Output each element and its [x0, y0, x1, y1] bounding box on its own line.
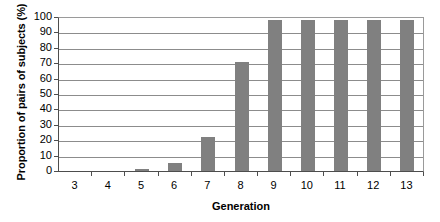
bar: [201, 137, 215, 171]
bar-chart: Proportion of pairs of subjects (%) 0102…: [0, 0, 440, 222]
y-axis-tick-label: 30: [20, 119, 52, 130]
x-axis-tick-mark: [158, 172, 159, 176]
y-axis-tick-label: 100: [20, 11, 52, 22]
bar: [235, 62, 249, 171]
bar: [367, 20, 381, 171]
y-axis-tick-label: 20: [20, 134, 52, 145]
y-axis-tick-label: 90: [20, 26, 52, 37]
bar: [168, 163, 182, 171]
y-axis-tick-label: 60: [20, 73, 52, 84]
x-axis-tick-mark: [357, 172, 358, 176]
x-axis-title: Generation: [58, 200, 424, 212]
x-axis-tick-mark: [124, 172, 125, 176]
x-axis-tick-label: 13: [386, 179, 426, 191]
bar: [301, 20, 315, 171]
y-axis-tick-label: 40: [20, 103, 52, 114]
x-axis-tick-mark: [191, 172, 192, 176]
bar: [135, 169, 149, 171]
x-axis-tick-mark: [423, 172, 424, 176]
y-axis-tick-label: 70: [20, 57, 52, 68]
x-axis-tick-mark: [257, 172, 258, 176]
bar: [268, 20, 282, 171]
y-axis-tick-label: 50: [20, 88, 52, 99]
x-axis-tick-mark: [290, 172, 291, 176]
x-axis-tick-mark: [91, 172, 92, 176]
y-axis-tick-label: 0: [20, 165, 52, 176]
bar: [400, 20, 414, 171]
y-axis-tick-label: 80: [20, 42, 52, 53]
y-axis-tick-label: 10: [20, 150, 52, 161]
bar: [334, 20, 348, 171]
plot-area: [58, 17, 424, 172]
x-axis-tick-mark: [323, 172, 324, 176]
x-axis-tick-mark: [224, 172, 225, 176]
x-axis-tick-mark: [390, 172, 391, 176]
